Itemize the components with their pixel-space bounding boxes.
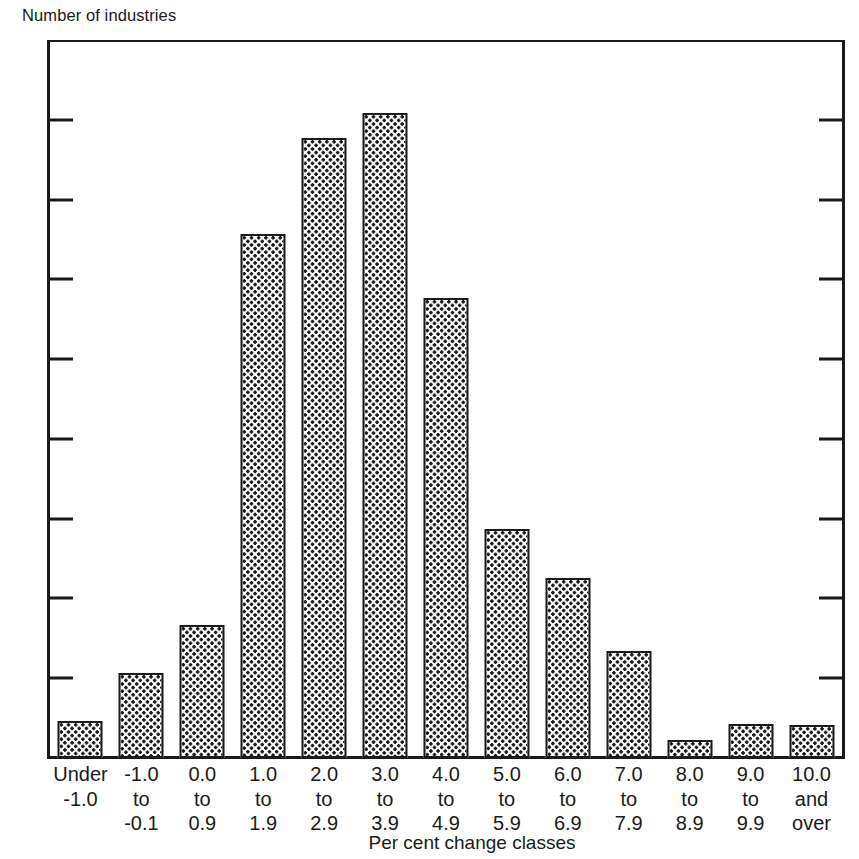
bar-slot [233, 40, 294, 758]
x-tick-label-line: to [537, 787, 598, 812]
histogram-bar[interactable] [667, 740, 712, 758]
x-tick-label-line: to [416, 787, 477, 812]
x-tick-label: 7.0to7.9 [598, 762, 659, 836]
x-tick-label-line: to [720, 787, 781, 812]
histogram-bar[interactable] [606, 651, 651, 758]
histogram-bar[interactable] [241, 234, 286, 758]
histogram-bar[interactable] [545, 578, 590, 758]
bar-slot [355, 40, 416, 758]
histogram-bar[interactable] [302, 138, 347, 758]
bar-slot [476, 40, 537, 758]
x-tick-label-line: 5.0 [476, 762, 537, 787]
x-tick-label: 2.0to2.9 [294, 762, 355, 836]
x-tick-label: 8.0to8.9 [659, 762, 720, 836]
x-tick-label-line: 2.0 [294, 762, 355, 787]
histogram-bar[interactable] [119, 673, 164, 758]
x-tick-label-line: -1.0 [50, 787, 111, 812]
x-tick-label: 1.0to1.9 [233, 762, 294, 836]
bar-slot [537, 40, 598, 758]
histogram-bar[interactable] [180, 625, 225, 758]
x-tick-label-line: to [355, 787, 416, 812]
bar-slot [50, 40, 111, 758]
x-tick-label-line: to [172, 787, 233, 812]
x-tick-label-line: 6.0 [537, 762, 598, 787]
bar-slot [172, 40, 233, 758]
histogram-bar[interactable] [423, 298, 468, 758]
bar-slot [294, 40, 355, 758]
bar-slot [720, 40, 781, 758]
x-tick-label: 5.0to5.9 [476, 762, 537, 836]
x-tick-label: 9.0to9.9 [720, 762, 781, 836]
bar-slot [659, 40, 720, 758]
histogram-bar[interactable] [484, 529, 529, 758]
x-tick-label-line: Under [50, 762, 111, 787]
bar-slot [111, 40, 172, 758]
x-tick-label-line: to [111, 787, 172, 812]
bar-slot [416, 40, 477, 758]
x-axis-title: Per cent change classes [0, 832, 859, 854]
bar-slot [598, 40, 659, 758]
x-tick-label-line: -1.0 [111, 762, 172, 787]
x-tick-label-line: 9.0 [720, 762, 781, 787]
histogram-figure: Number of industries 0102030405060708090… [0, 0, 859, 859]
histogram-bar[interactable] [363, 113, 408, 758]
x-tick-label-line: to [294, 787, 355, 812]
x-tick-label: -1.0to-0.1 [111, 762, 172, 836]
x-tick-label: 6.0to6.9 [537, 762, 598, 836]
x-tick-label-line: 0.0 [172, 762, 233, 787]
x-tick-label-line: to [659, 787, 720, 812]
x-tick-label-line: 8.0 [659, 762, 720, 787]
x-tick-label-line: to [598, 787, 659, 812]
x-tick-label-line: to [233, 787, 294, 812]
x-tick-label-line: 10.0 [781, 762, 842, 787]
bars-layer [50, 40, 842, 758]
x-tick-label: 0.0to0.9 [172, 762, 233, 836]
x-tick-label-line: 4.0 [416, 762, 477, 787]
x-tick-label-line: and [781, 787, 842, 812]
bar-slot [781, 40, 842, 758]
histogram-bar[interactable] [58, 721, 103, 758]
x-tick-label: 4.0to4.9 [416, 762, 477, 836]
x-tick-label: 10.0andover [781, 762, 842, 836]
x-tick-label-line: 3.0 [355, 762, 416, 787]
x-axis-tick-labels: Under-1.0-1.0to-0.10.0to0.91.0to1.92.0to… [50, 762, 842, 842]
histogram-bar[interactable] [728, 724, 773, 758]
x-tick-label-line: 1.0 [233, 762, 294, 787]
x-tick-label-line: 7.0 [598, 762, 659, 787]
x-tick-label: Under-1.0 [50, 762, 111, 811]
x-tick-label-line: to [476, 787, 537, 812]
x-tick-label: 3.0to3.9 [355, 762, 416, 836]
histogram-bar[interactable] [789, 725, 834, 759]
